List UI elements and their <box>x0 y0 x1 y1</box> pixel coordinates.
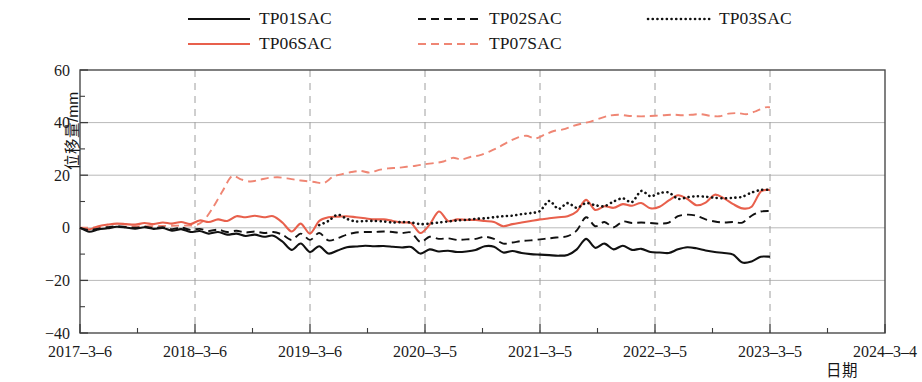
svg-text:2018–3–6: 2018–3–6 <box>163 343 227 360</box>
svg-text:2019–3–6: 2019–3–6 <box>278 343 342 360</box>
chart-page: TP01SAC TP02SAC TP03SAC TP06SAC TP07SAC … <box>0 0 922 382</box>
svg-text:2023–3–5: 2023–3–5 <box>738 343 802 360</box>
svg-text:2017–3–6: 2017–3–6 <box>48 343 112 360</box>
y-axis-title: 位移量/mm <box>60 56 82 206</box>
svg-text:2021–3–5: 2021–3–5 <box>508 343 572 360</box>
svg-text:2020–3–5: 2020–3–5 <box>393 343 457 360</box>
chart-canvas: 6040200−20−402017–3–62018–3–62019–3–6202… <box>0 0 922 382</box>
svg-text:0: 0 <box>62 219 70 236</box>
x-axis-title: 日期 <box>826 358 858 380</box>
svg-text:2024–3–4: 2024–3–4 <box>853 343 917 360</box>
chart-plot-area: 6040200−20−402017–3–62018–3–62019–3–6202… <box>0 0 922 382</box>
svg-text:−40: −40 <box>45 325 70 342</box>
svg-text:−20: −20 <box>45 272 70 289</box>
svg-text:2022–3–5: 2022–3–5 <box>623 343 687 360</box>
